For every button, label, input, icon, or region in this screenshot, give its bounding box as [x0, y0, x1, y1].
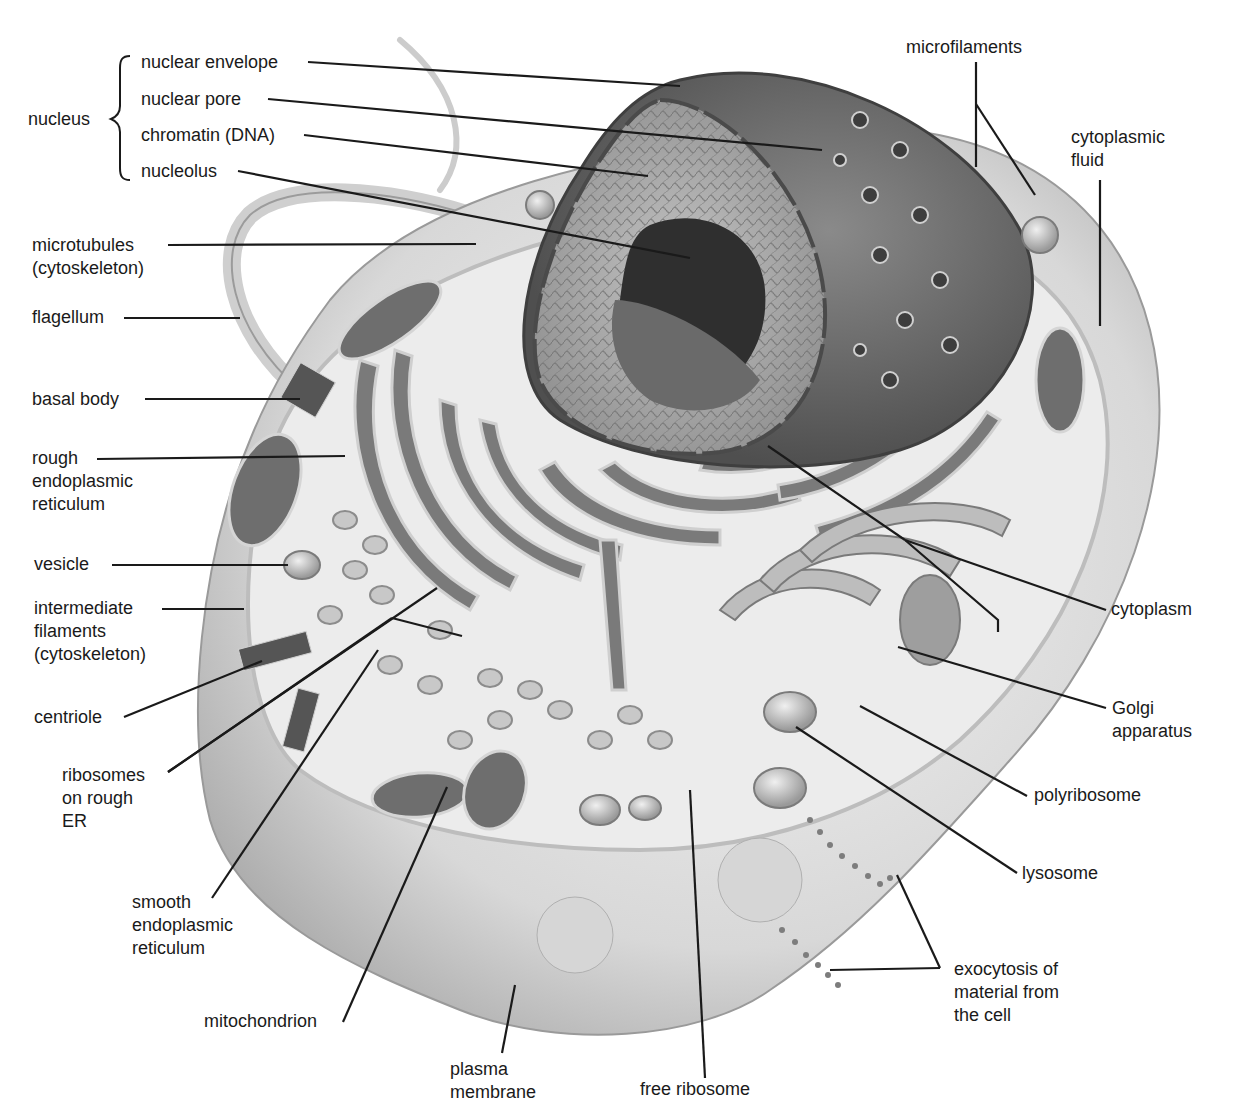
label-cytoplasm: cytoplasm: [1111, 598, 1192, 621]
label-basal-body: basal body: [32, 388, 119, 411]
label-chromatin: chromatin (DNA): [141, 124, 275, 147]
label-microfilaments: microfilaments: [906, 36, 1022, 59]
label-golgi-apparatus: Golgi apparatus: [1112, 697, 1192, 743]
label-exocytosis: exocytosis of material from the cell: [954, 958, 1059, 1027]
label-flagellum: flagellum: [32, 306, 104, 329]
label-centriole: centriole: [34, 706, 102, 729]
leader-line-microtubules: [168, 244, 476, 245]
nucleus-bracket: [111, 56, 130, 180]
nucleus-shape: [524, 73, 1033, 467]
label-polyribosome: polyribosome: [1034, 784, 1141, 807]
label-nucleus: nucleus: [28, 108, 90, 131]
label-cytoplasmic-fluid: cytoplasmic fluid: [1071, 126, 1165, 172]
label-intermediate-filaments: intermediate filaments (cytoskeleton): [34, 597, 146, 666]
label-nuclear-envelope: nuclear envelope: [141, 51, 278, 74]
leader-line-exocytosis-2: [830, 968, 940, 970]
label-rough-er: rough endoplasmic reticulum: [32, 447, 133, 516]
label-free-ribosome: free ribosome: [640, 1078, 750, 1101]
label-microtubules: microtubules (cytoskeleton): [32, 234, 144, 280]
label-vesicle: vesicle: [34, 553, 89, 576]
label-lysosome: lysosome: [1022, 862, 1098, 885]
label-nucleolus: nucleolus: [141, 160, 217, 183]
leader-line-exocytosis-1: [897, 875, 940, 968]
leader-line-nuclear-envelope: [308, 62, 680, 86]
label-smooth-er: smooth endoplasmic reticulum: [132, 891, 233, 960]
label-nuclear-pore: nuclear pore: [141, 88, 241, 111]
label-mitochondrion: mitochondrion: [204, 1010, 317, 1033]
animal-cell-diagram: nuclear envelopenuclear porechromatin (D…: [0, 0, 1233, 1120]
label-plasma-membrane: plasma membrane: [450, 1058, 536, 1104]
label-ribosomes-on-rough-er: ribosomes on rough ER: [62, 764, 145, 833]
